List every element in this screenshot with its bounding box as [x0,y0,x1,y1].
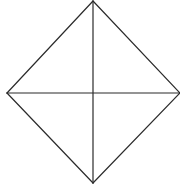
rhombus-diagonals [7,1,180,183]
edge-bottom-left [7,93,93,183]
edge-left-top [7,1,93,93]
rhombus-diagram [0,0,180,184]
edge-right-bottom [93,93,180,183]
edge-top-right [93,1,180,93]
